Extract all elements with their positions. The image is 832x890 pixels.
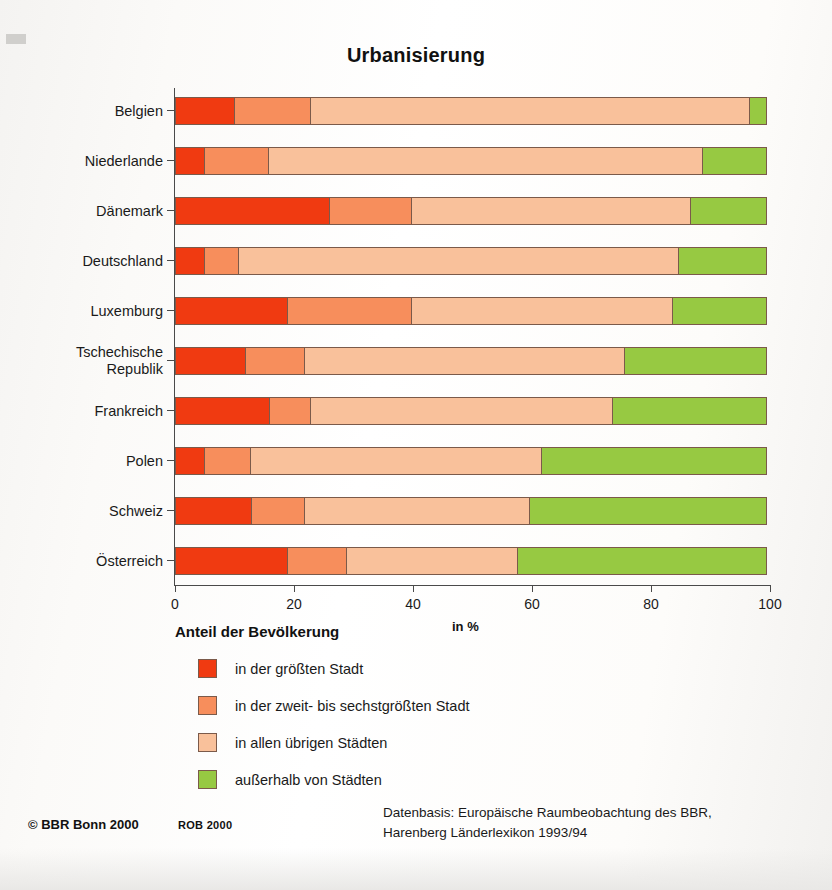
y-tick — [167, 310, 175, 311]
legend-label: in allen übrigen Städten — [235, 735, 387, 751]
legend-label: außerhalb von Städten — [235, 772, 382, 788]
bar-segment — [250, 447, 542, 475]
plot-area: 020406080100 BelgienNiederlandeDänemarkD… — [175, 88, 770, 585]
stacked-bar — [175, 147, 770, 175]
legend-swatch-icon — [198, 696, 217, 715]
bar-segment — [175, 447, 205, 475]
x-tick-20 — [294, 585, 295, 592]
legend-item: außerhalb von Städten — [198, 761, 470, 798]
y-tick — [167, 110, 175, 111]
bar-segment — [175, 397, 270, 425]
source-note: Datenbasis: Europäische Raumbeobachtung … — [383, 803, 712, 842]
bar-segment — [678, 247, 767, 275]
y-tick — [167, 510, 175, 511]
x-tick-80 — [651, 585, 652, 592]
chart-page: Urbanisierung 020406080100 BelgienNieder… — [0, 0, 832, 890]
category-label: Österreich — [0, 547, 163, 575]
bar-segment — [238, 247, 678, 275]
bar-segment — [672, 297, 767, 325]
bar-row: Dänemark — [175, 197, 770, 225]
legend-label: in der zweit- bis sechstgrößten Stadt — [235, 698, 470, 714]
bar-segment — [245, 347, 305, 375]
legend-label: in der größten Stadt — [235, 661, 363, 677]
bar-segment — [411, 297, 673, 325]
x-tick-label-40: 40 — [405, 596, 421, 612]
category-label: Polen — [0, 447, 163, 475]
stacked-bar — [175, 397, 770, 425]
stacked-bar — [175, 447, 770, 475]
bar-row: Deutschland — [175, 247, 770, 275]
bar-segment — [175, 197, 330, 225]
bar-segment — [175, 497, 252, 525]
bar-segment — [541, 447, 767, 475]
bar-row: Polen — [175, 447, 770, 475]
bar-segment — [251, 497, 305, 525]
bar-segment — [749, 97, 767, 125]
bar-segment — [624, 347, 767, 375]
bar-row: Tschechische Republik — [175, 347, 770, 375]
bar-row: Schweiz — [175, 497, 770, 525]
stacked-bar — [175, 197, 770, 225]
stacked-bar — [175, 347, 770, 375]
x-tick-label-20: 20 — [286, 596, 302, 612]
bar-segment — [310, 97, 750, 125]
legend-swatch-icon — [198, 770, 217, 789]
bar-segment — [234, 97, 311, 125]
bar-row: Frankreich — [175, 397, 770, 425]
category-label: Frankreich — [0, 397, 163, 425]
category-label: Tschechische Republik — [0, 347, 163, 375]
x-tick-40 — [413, 585, 414, 592]
copyright-credit: © BBR Bonn 2000 — [28, 817, 139, 832]
bar-segment — [304, 347, 625, 375]
x-tick-0 — [175, 585, 176, 592]
bar-segment — [175, 347, 246, 375]
bar-segment — [204, 447, 252, 475]
y-tick — [167, 560, 175, 561]
legend-item: in der größten Stadt — [198, 650, 470, 687]
legend-swatch-icon — [198, 733, 217, 752]
category-label: Luxemburg — [0, 297, 163, 325]
bar-segment — [329, 197, 412, 225]
scan-artifact — [6, 34, 26, 44]
bar-segment — [304, 497, 530, 525]
bar-segment — [310, 397, 613, 425]
category-label: Dänemark — [0, 197, 163, 225]
stacked-bar — [175, 497, 770, 525]
legend-item: in der zweit- bis sechstgrößten Stadt — [198, 687, 470, 724]
bar-segment — [287, 297, 412, 325]
y-tick — [167, 210, 175, 211]
bar-row: Luxemburg — [175, 297, 770, 325]
page-title: Urbanisierung — [0, 44, 832, 67]
legend-item: in allen übrigen Städten — [198, 724, 470, 761]
x-tick-100 — [770, 585, 771, 592]
bar-segment — [529, 497, 767, 525]
y-tick — [167, 410, 175, 411]
bar-segment — [287, 547, 347, 575]
y-tick — [167, 460, 175, 461]
stacked-bar — [175, 547, 770, 575]
bar-row: Österreich — [175, 547, 770, 575]
x-tick-label-0: 0 — [171, 596, 179, 612]
bar-segment — [204, 247, 240, 275]
rob-label: ROB 2000 — [178, 819, 232, 831]
bar-segment — [690, 197, 767, 225]
bar-segment — [175, 247, 205, 275]
bar-segment — [175, 297, 288, 325]
bar-segment — [346, 547, 519, 575]
bar-segment — [268, 147, 702, 175]
stacked-bar — [175, 297, 770, 325]
bar-row: Niederlande — [175, 147, 770, 175]
x-axis-unit: in % — [452, 619, 479, 634]
y-tick — [167, 160, 175, 161]
category-label: Schweiz — [0, 497, 163, 525]
y-tick — [167, 260, 175, 261]
y-axis-caption: Anteil der Bevölkerung — [175, 623, 339, 640]
x-tick-label-60: 60 — [524, 596, 540, 612]
bar-segment — [204, 147, 269, 175]
bar-segment — [702, 147, 767, 175]
legend: in der größten Stadtin der zweit- bis se… — [198, 650, 470, 798]
stacked-bar — [175, 247, 770, 275]
bar-segment — [411, 197, 691, 225]
legend-swatch-icon — [198, 659, 217, 678]
category-label: Belgien — [0, 97, 163, 125]
